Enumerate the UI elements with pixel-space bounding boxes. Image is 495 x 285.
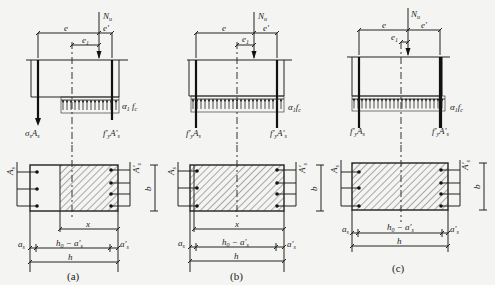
axial-force-label: Nu (257, 11, 267, 22)
panel-b-cross-section: As A's b x (166, 145, 324, 283)
panel-c: Nu e e' e1 (329, 8, 487, 275)
width-label: b (309, 186, 319, 191)
lever-arm-label: h0 − a's (387, 222, 415, 233)
panel-a: Nu e e' e1 (5, 11, 158, 283)
concrete-stress-label: α1 fc (122, 101, 138, 112)
compression-steel-area-label: A's (131, 163, 142, 174)
as-label: as (178, 238, 186, 249)
concrete-stress-label: α1fc (450, 102, 463, 113)
tension-steel-force-label: f'yAs (350, 126, 366, 137)
panel-a-elevation: Nu e e' e1 (25, 11, 138, 145)
ecc-prime-label: e' (421, 20, 428, 30)
panel-a-cross-section: As A's b x (5, 145, 158, 283)
ecc-initial-label: e1 (391, 32, 398, 43)
ecc-initial-label: e1 (242, 34, 249, 45)
panel-b-elevation: Nu e e' e1 (186, 11, 301, 145)
as-prime-label: a's (120, 239, 129, 250)
tension-steel-area-label: As (5, 167, 16, 177)
as-prime-label: a's (450, 224, 459, 235)
ecc-prime-label: e' (103, 23, 110, 33)
compression-steel-force-label: f'yA's (270, 128, 288, 139)
tension-steel-force-label: σsAs (25, 128, 40, 139)
panel-c-cross-section: As A's b as h0 − a's a' (329, 145, 487, 275)
ecc-total-label: e (64, 23, 68, 33)
tension-steel-area-label: As (329, 165, 340, 175)
tension-steel-force-label: f'yAs (186, 128, 202, 139)
compression-depth-label: x (85, 219, 90, 229)
as-label: as (18, 239, 26, 250)
lever-arm-label: h0 − a's (222, 237, 250, 248)
panel-c-caption: (c) (392, 262, 405, 275)
axial-force-label: Nu (102, 11, 112, 22)
compression-steel-area-label: A's (460, 160, 471, 171)
compression-depth-label: x (234, 219, 239, 229)
panel-b-caption: (b) (230, 270, 243, 283)
compression-steel-force-label: f'yA's (103, 128, 121, 139)
as-label: as (342, 224, 350, 235)
ecc-total-label: e (222, 23, 226, 33)
eccentric-compression-section-diagrams: Nu e e' e1 (0, 0, 495, 285)
concrete-stress-label: α1fc (288, 102, 301, 113)
height-label: h (234, 251, 239, 261)
ecc-prime-label: e' (263, 23, 270, 33)
ecc-initial-label: e1 (82, 35, 89, 46)
height-label: h (68, 252, 73, 262)
tension-steel-area-label: As (166, 167, 177, 177)
lever-arm-label: h0 − a's (56, 238, 84, 249)
panel-b: Nu e e' e1 (166, 11, 324, 283)
compression-steel-area-label: A's (297, 163, 308, 174)
compression-steel-force-label: f'yA's (432, 126, 450, 137)
as-prime-label: a's (287, 239, 296, 250)
panel-c-elevation: Nu e e' e1 (347, 8, 463, 145)
axial-force-label: Nu (410, 9, 420, 20)
width-label: b (143, 186, 153, 191)
height-label: h (397, 236, 402, 246)
ecc-total-label: e (382, 20, 386, 30)
panel-a-caption: (a) (67, 270, 80, 283)
width-label: b (472, 184, 482, 189)
